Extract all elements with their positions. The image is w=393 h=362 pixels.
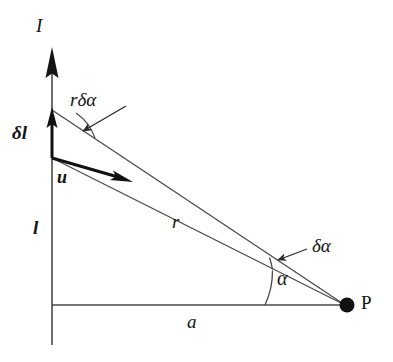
point-p-marker	[340, 298, 355, 313]
label-arc-length-r-delta-alpha: rδα	[70, 90, 96, 109]
label-point-p: P	[361, 293, 372, 312]
label-length-l: l	[33, 218, 38, 237]
ray-r-lower	[52, 158, 345, 305]
ray-r-upper	[52, 110, 345, 305]
label-current-I: I	[36, 16, 42, 35]
arc-alpha	[265, 271, 273, 306]
label-unit-vector-u: u	[57, 168, 67, 186]
label-distance-r: r	[172, 212, 179, 231]
current-direction-arrowhead	[46, 47, 59, 78]
label-angle-delta-alpha: δα	[312, 236, 331, 255]
label-angle-alpha: α	[277, 268, 288, 288]
label-distance-a: a	[187, 312, 197, 331]
leader-delta-alpha	[278, 249, 307, 260]
label-delta-l: δl	[12, 123, 27, 142]
physics-diagram: I rδα δl u l r a α δα P	[0, 0, 393, 362]
